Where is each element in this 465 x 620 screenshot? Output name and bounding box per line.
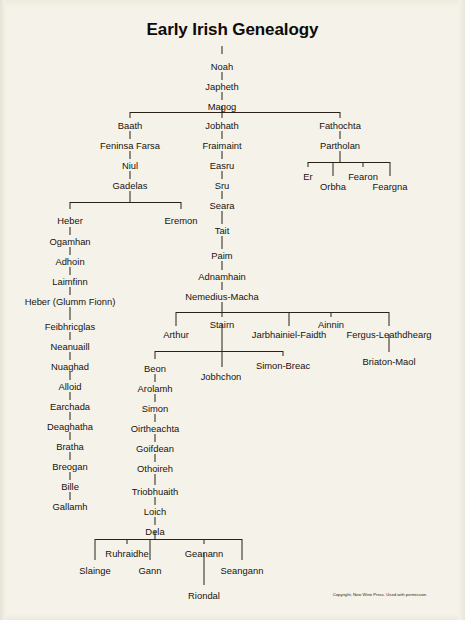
- connector-paim-adnamhain: [222, 261, 223, 270]
- connector-oirtheachta-goifdean: [155, 434, 156, 442]
- connector-branch-slainge: [95, 539, 96, 560]
- genealogy-node-easru: Easru: [210, 161, 235, 171]
- genealogy-node-arolamh: Arolamh: [138, 384, 173, 394]
- genealogy-node-simon-breac: Simon-Breac: [256, 361, 310, 371]
- genealogy-node-gadelas: Gadelas: [113, 181, 148, 191]
- genealogy-node-orbha: Orbha: [320, 182, 346, 192]
- genealogy-node-paim: Paim: [211, 251, 232, 261]
- connector-loich-dela: [155, 517, 156, 525]
- connector-adnamhain-nemedius: [222, 282, 223, 290]
- genealogy-node-fathochta: Fathochta: [319, 121, 361, 131]
- genealogy-node-feargna: Feargna: [373, 182, 408, 192]
- connector-nuaghad-alloid: [70, 372, 71, 380]
- genealogy-node-othoireh: Othoireh: [137, 464, 173, 474]
- connector-earchada-deaghatha: [70, 412, 71, 420]
- connector-neanuaill-nuaghad: [70, 352, 71, 360]
- scan-edge-left: [0, 0, 6, 620]
- connector-partholan-drop: [340, 151, 341, 162]
- genealogy-node-dela: Dela: [145, 527, 164, 537]
- genealogy-node-triobhuaith: Triobhuaith: [132, 487, 179, 497]
- genealogy-node-ruhraidhe: Ruhraidhe: [105, 549, 148, 559]
- connector-alloid-earchada: [70, 392, 71, 400]
- genealogy-node-simon: Simon: [142, 404, 169, 414]
- genealogy-node-earchada: Earchada: [50, 402, 90, 412]
- genealogy-node-ogamhan: Ogamhan: [49, 237, 90, 247]
- genealogy-node-adnamhain: Adnamhain: [198, 272, 245, 282]
- connector-branch-heber: [70, 202, 71, 209]
- connector-sru-seara: [222, 191, 223, 199]
- connector-branch-jobhchon: [222, 351, 223, 367]
- genealogy-node-jarbhainiel-faidth: Jarbhainiel-Faidth: [252, 330, 327, 340]
- genealogy-node-stairn: Stairn: [210, 320, 235, 330]
- connector-easru-sru: [222, 171, 223, 179]
- genealogy-node-bratha: Bratha: [56, 442, 84, 452]
- connector-branch-eremon: [181, 202, 182, 209]
- genealogy-node-jobhchon: Jobhchon: [201, 372, 242, 382]
- connector-ogamhan-adhoin: [70, 247, 71, 255]
- connector-partholan-children-bar: [308, 162, 390, 163]
- genealogy-node-goifdean: Goifdean: [136, 444, 174, 454]
- genealogy-node-bille: Bille: [61, 482, 79, 492]
- connector-bratha-breogan: [70, 452, 71, 460]
- connector-niul-gadelas: [130, 171, 131, 179]
- connector-stairn-children-bar: [155, 351, 283, 352]
- connector-fathochta-partholan: [340, 131, 341, 139]
- genealogy-node-nemedius-macha: Nemedius-Macha: [185, 292, 258, 302]
- genealogy-node-alloid: Alloid: [59, 382, 82, 392]
- connector-fraimaint-easru: [222, 151, 223, 159]
- connector-branch-beon: [155, 351, 156, 359]
- connector-branch-gann: [150, 539, 151, 560]
- page-title: Early Irish Genealogy: [0, 20, 465, 40]
- connector-feninsa-niul: [130, 151, 131, 159]
- connector-title-to-noah: [222, 46, 223, 54]
- genealogy-node-breogan: Breogan: [52, 462, 87, 472]
- connector-deaghatha-bratha: [70, 432, 71, 440]
- connector-goifdean-othoireh: [155, 454, 156, 462]
- genealogy-node-beon: Beon: [144, 364, 166, 374]
- connector-noah-japheth: [222, 72, 223, 80]
- connector-dela-children-bar: [95, 539, 242, 540]
- genealogy-node-oirtheachta: Oirtheachta: [131, 424, 179, 434]
- genealogy-node-geanann: Geanann: [185, 549, 224, 559]
- genealogy-node-magog: Magog: [208, 102, 237, 112]
- connector-bille-gallamh: [70, 492, 71, 500]
- genealogy-node-feninsa-farsa: Feninsa Farsa: [100, 141, 160, 151]
- connector-branch-jarbhainiel: [289, 312, 290, 326]
- genealogy-node-er: Er: [303, 172, 312, 182]
- genealogy-node-riondal: Riondal: [188, 591, 220, 601]
- connector-gadelas-drop: [130, 191, 131, 202]
- connector-breogan-bille: [70, 472, 71, 480]
- connector-arolamh-simon: [155, 394, 156, 402]
- connector-heber-ogamhan: [70, 227, 71, 235]
- connector-branch-fergus: [389, 312, 390, 326]
- connector-japheth-magog: [222, 92, 223, 100]
- genealogy-node-noah: Noah: [211, 62, 233, 72]
- connector-tait-paim: [222, 236, 223, 249]
- connector-seara-tait: [222, 211, 223, 224]
- genealogy-node-niul: Niul: [122, 161, 138, 171]
- genealogy-node-feibhricglas: Feibhricglas: [45, 322, 96, 332]
- connector-jobhath-fraimaint: [222, 131, 223, 139]
- connector-nemedius-drop: [222, 302, 223, 312]
- connector-adhoin-laimfinn: [70, 267, 71, 275]
- genealogy-node-loich: Loich: [144, 507, 166, 517]
- genealogy-node-gallamh: Gallamh: [53, 502, 88, 512]
- copyright-notice: Copyright, New Wine Press. Used with per…: [333, 592, 427, 598]
- genealogy-node-partholan: Partholan: [320, 141, 360, 151]
- genealogy-node-baath: Baath: [118, 121, 143, 131]
- genealogy-node-seangann: Seangann: [221, 566, 264, 576]
- connector-gadelas-children-bar: [70, 202, 181, 203]
- connector-triobhuaith-loich: [155, 497, 156, 505]
- genealogy-node-heber: Heber: [57, 216, 83, 226]
- genealogy-node-briaton-maol: Briaton-Maol: [362, 357, 415, 367]
- connector-branch-feargna: [390, 162, 391, 176]
- genealogy-node-slainge: Slainge: [79, 566, 110, 576]
- genealogy-node-adhoin: Adhoin: [55, 257, 84, 267]
- genealogy-node-arthur: Arthur: [163, 330, 189, 340]
- connector-magog-children-bar: [130, 112, 340, 113]
- genealogy-node-seara: Seara: [209, 201, 234, 211]
- connector-branch-arthur: [176, 312, 177, 326]
- genealogy-node-nuaghad: Nuaghad: [51, 362, 89, 372]
- connector-branch-seangann: [242, 539, 243, 560]
- genealogy-node-deaghatha: Deaghatha: [47, 422, 93, 432]
